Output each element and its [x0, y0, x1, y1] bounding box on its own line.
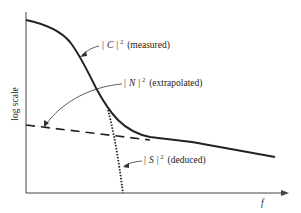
spectrum-diagram: log scale f |C|2(measured) |N|2(extrapol… [0, 0, 301, 213]
arrowhead-deduced-icon [123, 163, 129, 168]
x-axis-label: f [261, 198, 265, 208]
label-extrapolated: |N|2(extrapolated) [124, 77, 202, 89]
y-axis-label: log scale [10, 87, 20, 121]
curve-extrapolated-N [26, 125, 150, 140]
label-measured: |C|2(measured) [102, 39, 170, 51]
label-deduced: |S|2(deduced) [144, 154, 206, 166]
x-axis-arrow-icon [281, 190, 289, 196]
arrowhead-measured-icon [80, 51, 87, 57]
